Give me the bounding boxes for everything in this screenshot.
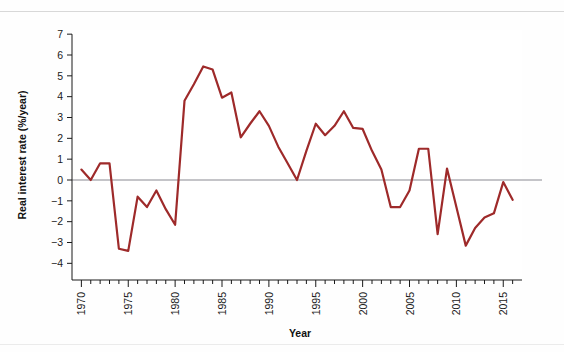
x-tick-label: 1990 [263, 292, 275, 316]
x-tick-label: 2000 [357, 292, 369, 316]
x-tick-label: 1970 [75, 292, 87, 316]
x-tick-label: 1980 [169, 292, 181, 316]
x-tick-label: 1975 [122, 292, 134, 316]
chart-figure: 76543210−1−2−3−4 19701975198019851990199… [0, 12, 564, 344]
y-tick-label: 4 [57, 90, 63, 102]
y-tick-label: 5 [57, 70, 63, 82]
x-tick-label: 2005 [404, 292, 416, 316]
plot-area-background [72, 30, 522, 280]
y-axis: 76543210−1−2−3−4 [51, 28, 72, 280]
y-tick-label: 6 [57, 49, 63, 61]
y-tick-label: 7 [57, 28, 63, 40]
y-tick-label: −4 [51, 257, 63, 269]
y-axis-title: Real interest rate (%/year) [16, 91, 28, 220]
bottom-divider [0, 344, 564, 345]
real-interest-rate-line-chart: 76543210−1−2−3−4 19701975198019851990199… [0, 12, 564, 344]
y-tick-label: 2 [57, 132, 63, 144]
y-tick-label: −2 [51, 215, 63, 227]
x-axis-title: Year [289, 327, 311, 339]
y-tick-label: 0 [57, 174, 63, 186]
x-tick-label: 2015 [497, 292, 509, 316]
x-tick-label: 1985 [216, 292, 228, 316]
y-tick-label: −1 [51, 195, 63, 207]
y-tick-label: 3 [57, 111, 63, 123]
x-axis: 1970197519801985199019952000200520102015 [72, 280, 522, 315]
y-tick-label: 1 [57, 153, 63, 165]
x-tick-label: 1995 [310, 292, 322, 316]
y-tick-label: −3 [51, 236, 63, 248]
figure-page: 76543210−1−2−3−4 19701975198019851990199… [0, 0, 564, 352]
x-tick-label: 2010 [450, 292, 462, 316]
